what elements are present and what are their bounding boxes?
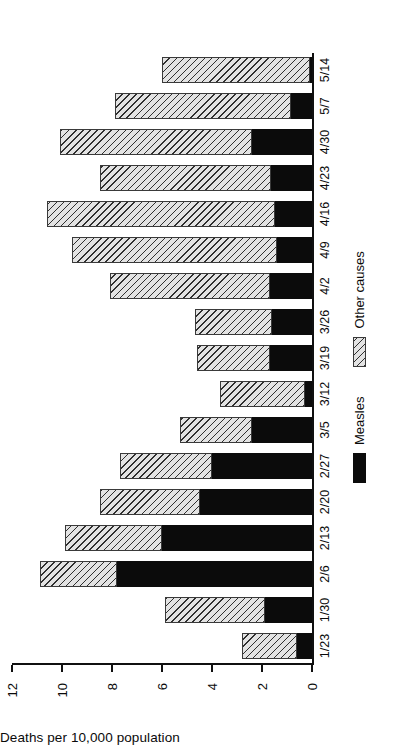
bar-group[interactable] bbox=[12, 417, 312, 443]
category-label: 1/23 bbox=[318, 634, 332, 658]
bar-group[interactable] bbox=[12, 93, 312, 119]
bar-segment-measles[interactable] bbox=[271, 165, 312, 191]
bar-group[interactable] bbox=[12, 525, 312, 551]
legend-label: Other causes bbox=[352, 251, 367, 328]
category-label: 4/9 bbox=[318, 241, 332, 258]
bar-group[interactable] bbox=[12, 489, 312, 515]
legend-swatch-other bbox=[353, 337, 366, 367]
bar-segment-measles[interactable] bbox=[310, 57, 313, 83]
category-label: 4/30 bbox=[318, 130, 332, 154]
value-axis-tick bbox=[161, 665, 163, 672]
value-axis-tick-label: 6 bbox=[155, 683, 170, 717]
bar-group[interactable] bbox=[12, 345, 312, 371]
value-axis-tick-label: 10 bbox=[55, 683, 70, 717]
bars-area bbox=[12, 52, 312, 664]
bar-segment-other-causes[interactable] bbox=[100, 165, 271, 191]
category-label: 2/6 bbox=[318, 565, 332, 582]
category-label: 1/30 bbox=[318, 598, 332, 622]
chart-legend: MeaslesOther causes bbox=[352, 251, 367, 483]
bar-segment-measles[interactable] bbox=[162, 525, 312, 551]
legend-label: Measles bbox=[352, 397, 367, 445]
category-label: 3/12 bbox=[318, 382, 332, 406]
bar-segment-measles[interactable] bbox=[212, 453, 312, 479]
value-axis-tick bbox=[311, 665, 313, 672]
bar-segment-other-causes[interactable] bbox=[195, 309, 273, 335]
category-label: 2/13 bbox=[318, 526, 332, 550]
value-axis-tick bbox=[111, 665, 113, 672]
bar-segment-other-causes[interactable] bbox=[100, 489, 200, 515]
bar-segment-other-causes[interactable] bbox=[165, 597, 265, 623]
bar-segment-other-causes[interactable] bbox=[180, 417, 253, 443]
bar-segment-other-causes[interactable] bbox=[197, 345, 270, 371]
bar-segment-other-causes[interactable] bbox=[220, 381, 305, 407]
bar-segment-measles[interactable] bbox=[297, 633, 312, 659]
category-label: 4/16 bbox=[318, 202, 332, 226]
value-axis-tick-label: 4 bbox=[205, 683, 220, 717]
bar-segment-measles[interactable] bbox=[291, 93, 312, 119]
bar-segment-measles[interactable] bbox=[117, 561, 312, 587]
category-label: 5/7 bbox=[318, 97, 332, 114]
bar-segment-other-causes[interactable] bbox=[162, 57, 310, 83]
value-axis-tick-label: 8 bbox=[105, 683, 120, 717]
bar-segment-other-causes[interactable] bbox=[242, 633, 297, 659]
category-label: 3/26 bbox=[318, 310, 332, 334]
bar-group[interactable] bbox=[12, 57, 312, 83]
bar-segment-other-causes[interactable] bbox=[65, 525, 163, 551]
value-axis-tick bbox=[211, 665, 213, 672]
bar-group[interactable] bbox=[12, 309, 312, 335]
value-axis-tick bbox=[61, 665, 63, 672]
legend-swatch-measles bbox=[353, 453, 366, 483]
category-label: 2/20 bbox=[318, 490, 332, 514]
category-label: 3/5 bbox=[318, 421, 332, 438]
bar-group[interactable] bbox=[12, 381, 312, 407]
category-label: 4/2 bbox=[318, 277, 332, 294]
bar-segment-other-causes[interactable] bbox=[47, 201, 275, 227]
bar-group[interactable] bbox=[12, 129, 312, 155]
bar-segment-other-causes[interactable] bbox=[115, 93, 291, 119]
value-axis-tick-label: 2 bbox=[255, 683, 270, 717]
bar-group[interactable] bbox=[12, 561, 312, 587]
bar-group[interactable] bbox=[12, 165, 312, 191]
legend-item[interactable]: Measles bbox=[352, 397, 367, 483]
value-axis-tick-label: 0 bbox=[305, 683, 320, 717]
bar-group[interactable] bbox=[12, 273, 312, 299]
bar-segment-measles[interactable] bbox=[272, 309, 312, 335]
bar-group[interactable] bbox=[12, 237, 312, 263]
bar-segment-other-causes[interactable] bbox=[40, 561, 118, 587]
bar-segment-measles[interactable] bbox=[200, 489, 313, 515]
bar-segment-measles[interactable] bbox=[270, 273, 313, 299]
category-label: 2/27 bbox=[318, 454, 332, 478]
value-axis-tick-label: 12 bbox=[5, 683, 20, 717]
bar-segment-measles[interactable] bbox=[270, 345, 313, 371]
category-label: 5/14 bbox=[318, 58, 332, 82]
bar-group[interactable] bbox=[12, 633, 312, 659]
category-label: 3/19 bbox=[318, 346, 332, 370]
bar-segment-measles[interactable] bbox=[265, 597, 313, 623]
bar-segment-measles[interactable] bbox=[252, 417, 312, 443]
category-axis-line bbox=[312, 53, 314, 665]
bar-segment-other-causes[interactable] bbox=[110, 273, 270, 299]
bar-group[interactable] bbox=[12, 453, 312, 479]
legend-item[interactable]: Other causes bbox=[352, 251, 367, 366]
bar-segment-measles[interactable] bbox=[252, 129, 312, 155]
bar-segment-other-causes[interactable] bbox=[72, 237, 277, 263]
value-axis-tick bbox=[261, 665, 263, 672]
bar-segment-other-causes[interactable] bbox=[60, 129, 253, 155]
bar-group[interactable] bbox=[12, 201, 312, 227]
bar-group[interactable] bbox=[12, 597, 312, 623]
bar-segment-measles[interactable] bbox=[305, 381, 313, 407]
bar-segment-other-causes[interactable] bbox=[120, 453, 213, 479]
y-axis-title: Deaths per 10,000 population bbox=[0, 727, 403, 749]
category-label: 4/23 bbox=[318, 166, 332, 190]
value-axis-tick bbox=[11, 665, 13, 672]
bar-segment-measles[interactable] bbox=[277, 237, 312, 263]
bar-segment-measles[interactable] bbox=[275, 201, 313, 227]
